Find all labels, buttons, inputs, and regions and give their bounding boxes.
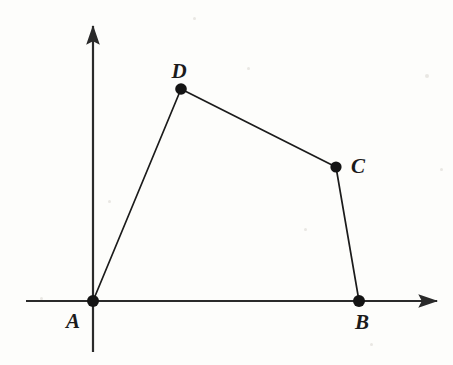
edge-DC [181,89,336,167]
edge-AD [93,89,181,301]
vertex-dots [87,83,365,307]
scan-speck [40,297,43,300]
vertex-label-D: D [171,61,186,82]
vertex-label-C: C [351,156,365,177]
scan-speck [247,67,250,70]
quadrilateral-edges [93,89,359,301]
scan-speck [440,168,443,171]
vertex-label-B: B [355,312,369,333]
scan-speck [304,228,307,231]
vertex-dot-B [353,295,365,307]
geometry-figure: A B C D [0,0,453,365]
scan-speck [108,200,111,203]
scan-speck [193,17,196,20]
vertex-dot-A [87,295,99,307]
vertex-label-A: A [66,311,80,332]
vertex-dot-C [330,161,341,172]
scan-speck [370,343,373,346]
scan-speck [425,74,429,78]
vertex-dot-D [175,83,187,95]
edge-CB [336,167,359,301]
